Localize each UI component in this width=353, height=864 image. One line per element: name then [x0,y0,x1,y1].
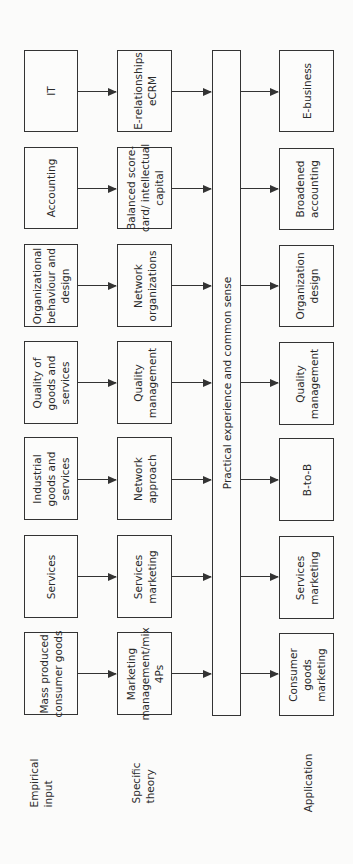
arrow [172,479,211,480]
theory-box-marketing-management: Marketing management/mix 4Ps [117,632,172,715]
arrow [241,479,278,480]
theory-box-network-approach: Network approach [117,437,172,520]
theory-box-e-relationships: E-relationships eCRM [117,50,172,132]
theory-box-network-organizations: Network organizations [117,244,172,327]
empirical-box-industrial: Industrial goods and services [24,437,78,520]
application-box-quality-management: Quality management [279,342,334,425]
box-label: Consumer goods marketing [286,648,328,702]
arrow [172,576,211,577]
arrow [78,382,116,383]
application-box-services-marketing: Services marketing [279,536,334,619]
bar-label: Practical experience and common sense [220,277,234,489]
box-label: E-relationships eCRM [131,52,159,130]
application-box-b-to-b: B-to-B [279,438,334,521]
arrow [172,382,211,383]
arrow [172,91,211,92]
stage-label-theory: Specific theory [129,763,157,804]
arrow [172,673,211,674]
application-box-broadened-accounting: Broadened accounting [279,148,334,230]
box-label: Services [44,554,58,598]
arrow [78,673,116,674]
box-label: Marketing management/mix 4Ps [124,627,166,720]
empirical-box-services: Services [24,535,78,618]
box-label: Organization design [293,252,321,319]
empirical-box-organizational: Organizational behaviour and design [24,244,78,327]
box-label: Balanced score- card/ intellectual capit… [124,144,166,232]
box-label: Quality management [293,348,321,418]
box-label: B-to-B [300,463,314,495]
box-label: Organizational behaviour and design [30,247,72,323]
box-label: E-business [300,63,314,119]
box-label: Network approach [131,454,159,503]
arrow [241,285,278,286]
stage-label-application: Application [301,754,315,813]
box-label: Broadened accounting [293,160,321,218]
box-label: Quality of goods and services [30,355,72,410]
box-label: Industrial goods and services [30,451,72,506]
arrow [78,576,116,577]
arrow [78,91,116,92]
arrow [241,673,278,674]
arrow [172,188,211,189]
arrow [241,91,278,92]
theory-box-quality-management: Quality management [117,341,172,424]
empirical-box-accounting: Accounting [24,147,78,229]
empirical-box-mass-produced: Mass produced consumer goods [24,632,78,715]
arrow [172,285,211,286]
application-box-consumer-goods: Consumer goods marketing [279,633,334,716]
box-label: Services marketing [131,550,159,604]
arrow [78,479,116,480]
arrow [78,285,116,286]
empirical-box-quality: Quality of goods and services [24,341,78,424]
application-box-e-business: E-business [279,50,334,132]
theory-box-balanced-scorecard: Balanced score- card/ intellectual capit… [117,147,172,229]
box-label: Network organizations [131,250,159,321]
application-box-organization-design: Organization design [279,245,334,327]
box-label: Quality management [131,347,159,417]
practical-experience-bar: Practical experience and common sense [212,50,241,716]
arrow [241,188,278,189]
empirical-box-it: IT [24,50,78,132]
box-label: Mass produced consumer goods [37,630,65,717]
theory-box-services-marketing: Services marketing [117,535,172,618]
arrow [78,188,116,189]
arrow [241,576,278,577]
box-label: Accounting [44,159,58,218]
stage-label-empirical: Empirical input [27,759,55,808]
arrow [241,382,278,383]
box-label: Services marketing [293,551,321,605]
box-label: IT [44,86,58,96]
